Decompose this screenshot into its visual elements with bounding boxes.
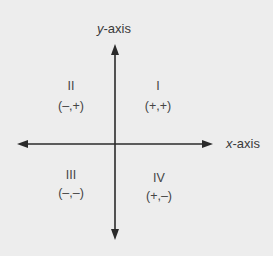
quadrant-4: IV (+,–) [139, 171, 179, 203]
quadrant-numeral: IV [139, 171, 179, 185]
quadrant-1: I (+,+) [138, 79, 178, 113]
quadrant-numeral: I [138, 79, 178, 93]
quadrant-numeral: III [51, 168, 91, 182]
quadrant-signs: (–,–) [51, 186, 91, 200]
quadrant-signs: (–,+) [51, 99, 91, 113]
arrow-down-icon [111, 229, 119, 240]
y-axis-label: y-axis [97, 21, 131, 36]
quadrant-2: II (–,+) [51, 79, 91, 113]
y-axis-suffix: -axis [104, 21, 131, 36]
arrow-right-icon [202, 140, 213, 148]
quadrant-3: III (–,–) [51, 168, 91, 200]
quadrant-numeral: II [51, 79, 91, 93]
arrow-up-icon [111, 44, 119, 55]
arrow-left-icon [17, 140, 28, 148]
quadrant-signs: (+,–) [139, 189, 179, 203]
x-axis-suffix: -axis [233, 136, 260, 151]
axes-graphic [0, 0, 273, 256]
quadrant-signs: (+,+) [138, 99, 178, 113]
x-axis-label: x-axis [226, 136, 260, 151]
